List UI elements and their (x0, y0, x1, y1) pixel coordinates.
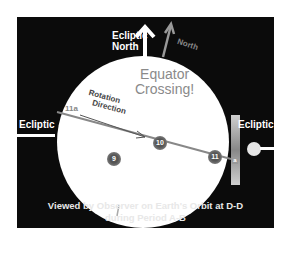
point-11a-label: 11a (65, 104, 78, 113)
ecliptic-north-label: Ecliptic North (112, 30, 148, 52)
observer-point (247, 142, 261, 156)
diagram-panel: Ecliptic North North Equator Crossing! R… (17, 17, 274, 228)
ecliptic-left-line (17, 134, 55, 137)
ecliptic-right-line (260, 147, 274, 150)
ecliptic-left-label: Ecliptic (19, 119, 55, 130)
ecliptic-right-label: Ecliptic (238, 119, 274, 130)
marker-11: 11 (208, 150, 222, 164)
marker-10: 10 (153, 136, 167, 150)
marker-9: 9 (107, 152, 121, 166)
equator-crossing-label: Equator Crossing! (135, 67, 194, 97)
caption: Viewed by Observer on Earth's Orbit at D… (17, 200, 274, 224)
marker-a: a (232, 157, 238, 164)
